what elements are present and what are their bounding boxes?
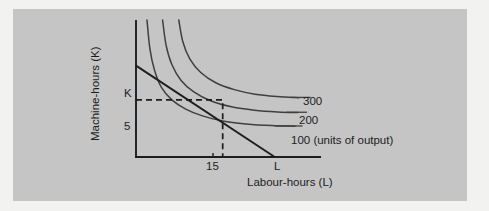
x-tick-label-15: 15 xyxy=(206,161,219,173)
isoquant-curves xyxy=(147,20,299,126)
isoquant-100-label: 100 (units of output) xyxy=(291,135,393,147)
isoquant-300-curve xyxy=(179,20,299,98)
x-axis-title: Labour-hours (L) xyxy=(247,177,333,189)
isoquant-200-curve xyxy=(163,20,298,112)
figure-container: Machine-hours (K) Labour-hours (L) K 5 1… xyxy=(0,0,489,211)
chart-plot-svg xyxy=(0,0,489,211)
y-axis-title: Machine-hours (K) xyxy=(88,32,104,156)
y-tick-label-5: 5 xyxy=(124,121,130,133)
isoquant-200-label: 200 xyxy=(299,115,318,127)
isoquant-100-curve xyxy=(147,20,295,126)
y-tick-label-K: K xyxy=(124,88,132,100)
x-tick-label-L: L xyxy=(274,161,280,173)
isocost-line xyxy=(136,66,275,157)
isoquant-300-label: 300 xyxy=(303,96,322,108)
tangency-guide-dashed xyxy=(136,100,223,157)
